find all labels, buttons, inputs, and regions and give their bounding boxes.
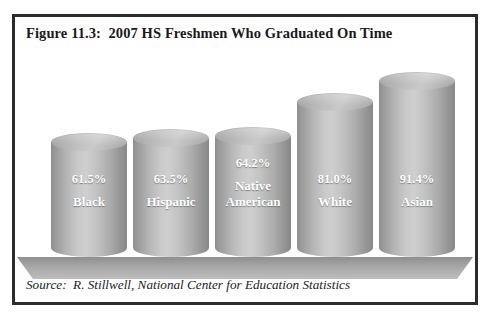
bar-cylinder-top-highlight bbox=[379, 73, 455, 89]
bar-cylinder-body bbox=[133, 138, 209, 257]
bar-native-american: 64.2%Native American bbox=[215, 127, 291, 257]
figure-title: Figure 11.3: 2007 HS Freshmen Who Gradua… bbox=[26, 25, 392, 42]
bar-cylinder-top-highlight bbox=[215, 128, 291, 144]
bar-cylinder-top-highlight bbox=[133, 130, 209, 146]
bar-cylinder-body bbox=[379, 81, 455, 257]
bar-cylinder-body bbox=[51, 142, 127, 257]
bar-hispanic: 63.5%Hispanic bbox=[133, 129, 209, 257]
bar-cylinder-top-highlight bbox=[297, 94, 373, 110]
bar-cylinder-top bbox=[51, 133, 127, 151]
chart-plot-area: 61.5%Black63.5%Hispanic64.2%Native Ameri… bbox=[15, 41, 475, 274]
bar-cylinder-top-highlight bbox=[51, 134, 127, 150]
bar-asian: 91.4%Asian bbox=[379, 72, 455, 257]
bar-cylinder-top bbox=[379, 72, 455, 90]
bar-cylinder-body bbox=[215, 136, 291, 257]
bar-cylinder-top bbox=[215, 127, 291, 145]
bar-cylinder-top bbox=[133, 129, 209, 147]
bar-white: 81.0%White bbox=[297, 93, 373, 257]
figure-container: Figure 11.3: 2007 HS Freshmen Who Gradua… bbox=[12, 14, 478, 305]
chart-floor-platform bbox=[17, 257, 473, 279]
source-note: Source: R. Stillwell, National Center fo… bbox=[26, 277, 350, 293]
bar-cylinder-body bbox=[297, 102, 373, 257]
bar-black: 61.5%Black bbox=[51, 133, 127, 257]
bar-cylinder-top bbox=[297, 93, 373, 111]
